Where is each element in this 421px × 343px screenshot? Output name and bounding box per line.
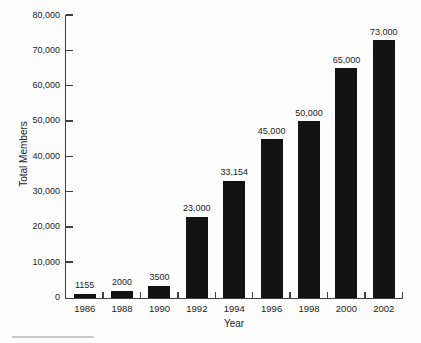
bar bbox=[335, 68, 357, 298]
y-tick bbox=[66, 14, 73, 16]
x-tick bbox=[215, 292, 217, 298]
y-tick-label: 80,000 bbox=[10, 10, 60, 21]
bar-value-label: 50,000 bbox=[279, 108, 339, 119]
x-tick bbox=[289, 292, 291, 298]
bar bbox=[373, 40, 395, 298]
bar bbox=[223, 181, 245, 298]
y-tick-label: 70,000 bbox=[10, 45, 60, 56]
y-tick-label: 30,000 bbox=[10, 186, 60, 197]
x-tick bbox=[140, 292, 142, 298]
bar-value-label: 73,000 bbox=[354, 27, 414, 38]
y-tick bbox=[66, 120, 73, 122]
x-year-label: 2002 bbox=[359, 303, 409, 314]
scan-artifact bbox=[12, 336, 94, 338]
x-tick bbox=[402, 292, 404, 298]
y-tick bbox=[66, 226, 73, 228]
bar-value-label: 23,000 bbox=[167, 203, 227, 214]
x-tick bbox=[364, 292, 366, 298]
y-tick-label: 10,000 bbox=[10, 257, 60, 268]
bar-value-label: 65,000 bbox=[316, 55, 376, 66]
y-tick bbox=[66, 85, 73, 87]
x-tick bbox=[177, 292, 179, 298]
x-tick bbox=[252, 292, 254, 298]
plot-area: 010,00020,00030,00040,00050,00060,00070,… bbox=[65, 15, 403, 299]
bar bbox=[111, 291, 133, 298]
bar bbox=[186, 217, 208, 298]
y-tick-label: 60,000 bbox=[10, 80, 60, 91]
y-tick-label: 40,000 bbox=[10, 151, 60, 162]
bar bbox=[148, 286, 170, 298]
page: Total Members 010,00020,00030,00040,0005… bbox=[0, 0, 421, 343]
bar bbox=[261, 139, 283, 298]
x-tick bbox=[327, 292, 329, 298]
y-tick-label: 50,000 bbox=[10, 115, 60, 126]
x-tick bbox=[102, 292, 104, 298]
x-axis-title: Year bbox=[65, 318, 403, 330]
bar bbox=[74, 294, 96, 298]
y-tick-label: 0 bbox=[10, 292, 60, 303]
y-tick bbox=[66, 191, 73, 193]
bar-value-label: 45,000 bbox=[242, 126, 302, 137]
bar-value-label: 33,154 bbox=[204, 167, 264, 178]
bar-value-label: 3500 bbox=[129, 272, 189, 283]
y-tick bbox=[66, 261, 73, 263]
y-tick-label: 20,000 bbox=[10, 221, 60, 232]
y-tick bbox=[66, 156, 73, 158]
bar bbox=[298, 121, 320, 298]
y-tick bbox=[66, 50, 73, 52]
